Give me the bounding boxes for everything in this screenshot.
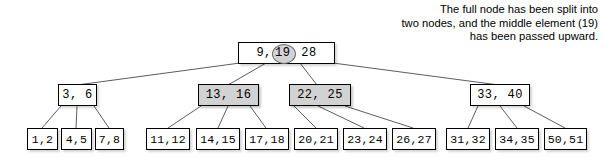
node-level2-3-6[interactable]: 3, 6 — [58, 84, 97, 106]
node-level2-33-40[interactable]: 33, 40 — [470, 84, 530, 106]
leaf-node[interactable]: 31,32 — [446, 128, 490, 150]
edge-n1-to-l1 — [42, 106, 61, 128]
edge-n3-to-l9 — [345, 106, 413, 128]
leaf-node[interactable]: 20,21 — [294, 128, 338, 150]
leaf-node[interactable]: 4,5 — [61, 128, 92, 150]
btree-diagram: The full node has been split into two no… — [0, 0, 610, 158]
root-key-separator: , — [264, 46, 272, 60]
root-key-3-spacer — [294, 46, 302, 60]
leaf-node[interactable]: 11,12 — [146, 128, 190, 150]
root-key-1: 9 — [256, 46, 264, 60]
leaf-node[interactable]: 26,27 — [392, 128, 436, 150]
edge-root-to-n1 — [77, 63, 240, 85]
leaf-node[interactable]: 14,15 — [196, 128, 240, 150]
edge-n4-to-l12 — [524, 106, 565, 128]
edge-n3-to-l7 — [294, 106, 316, 128]
node-level2-13-16[interactable]: 13, 16 — [198, 84, 259, 106]
edge-root-to-n2 — [228, 63, 266, 85]
edge-n1-to-l2 — [76, 106, 77, 128]
edge-n2-to-l4 — [168, 106, 201, 128]
edge-n4-to-l11 — [500, 106, 517, 128]
edge-n4-to-l10 — [468, 106, 478, 128]
edge-root-to-n4 — [333, 63, 499, 85]
leaf-node[interactable]: 34,35 — [495, 128, 539, 150]
edge-n1-to-l3 — [94, 106, 109, 128]
leaf-node[interactable]: 17,18 — [245, 128, 289, 150]
root-key-2-circled: 19 — [272, 44, 294, 62]
leaf-node[interactable]: 7,8 — [95, 128, 124, 150]
node-root-keys: 9,19 28 — [256, 44, 316, 62]
explanation-caption: The full node has been split into two no… — [338, 3, 598, 44]
leaf-node[interactable]: 1,2 — [27, 128, 58, 150]
node-root[interactable]: 9,19 28 — [238, 42, 335, 64]
edge-n2-to-l5 — [218, 106, 228, 128]
leaf-node[interactable]: 50,51 — [544, 128, 587, 150]
node-level2-22-25[interactable]: 22, 25 — [289, 84, 351, 106]
root-key-3: 28 — [301, 46, 316, 60]
root-key-2: 19 — [275, 46, 290, 60]
edge-n3-to-l8 — [318, 106, 364, 128]
edge-root-to-n3 — [300, 63, 317, 85]
leaf-node[interactable]: 23,24 — [343, 128, 387, 150]
edge-n2-to-l6 — [250, 106, 266, 128]
